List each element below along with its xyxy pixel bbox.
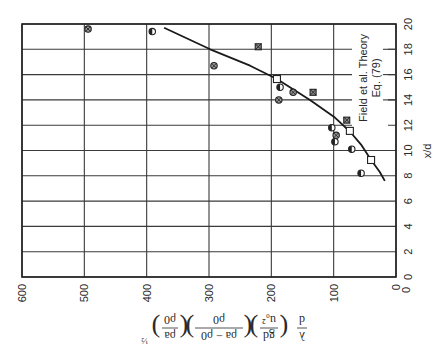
xd-tick-label: 8: [402, 173, 414, 179]
xd-tick-label: 2: [402, 249, 414, 255]
data-point: [368, 156, 375, 163]
data-point: [277, 84, 283, 90]
data-point: [85, 26, 91, 32]
data-point: [333, 132, 339, 138]
xd-tick-label: 0: [402, 274, 414, 280]
grid: [22, 24, 396, 277]
label-numerator: ρa: [164, 329, 176, 343]
label-denominator: ρ0: [164, 313, 176, 327]
label-denominator: ρ0: [213, 313, 225, 327]
xd-tick-label: 20: [402, 18, 414, 30]
xd-tick-label: 18: [402, 43, 414, 55]
value-tick-label: 500: [78, 284, 90, 302]
paren: (: [180, 314, 189, 343]
data-point: [290, 89, 296, 95]
xd-axis-label: x/d: [421, 144, 433, 159]
label-exponent: ½: [141, 336, 148, 346]
label-denominator: d: [299, 313, 305, 327]
data-point: [211, 63, 217, 69]
xd-tick-label: 10: [402, 144, 414, 156]
open-square-marker-icon: [346, 127, 353, 134]
xd-tick-label: 4: [402, 223, 414, 229]
data-point: [255, 44, 261, 50]
data-point: [349, 146, 355, 152]
data-point: [346, 127, 353, 134]
paren: (: [244, 314, 253, 343]
data-point: [149, 28, 155, 34]
data-markers: [85, 26, 375, 177]
value-tick-label: 200: [265, 284, 277, 302]
paren: (: [280, 314, 289, 343]
theory-equation-ref: Eq. (79): [370, 58, 382, 97]
value-tick-label: 600: [16, 284, 28, 302]
value-axis-label: λd(gdu₀²)(ρa − ρ0ρ0)(ρaρ0)½: [141, 313, 307, 346]
data-point: [310, 89, 316, 95]
open-square-marker-icon: [368, 156, 375, 163]
data-point: [344, 117, 350, 123]
label-numerator: λ: [299, 329, 305, 343]
data-point: [358, 170, 364, 176]
chart: 0246810121416182001002003004005006000x/d…: [0, 0, 441, 359]
label-denominator: u₀²: [262, 313, 276, 327]
corner-zero-label: 0: [400, 287, 412, 293]
data-point: [329, 125, 335, 131]
data-point: [273, 76, 280, 83]
data-point: [276, 97, 282, 103]
theory-curve: [164, 28, 385, 181]
label-numerator: ρa − ρ0: [201, 329, 237, 343]
xd-tick-label: 6: [402, 198, 414, 204]
xd-tick-label: 16: [402, 68, 414, 80]
xd-tick-label: 12: [402, 119, 414, 131]
xd-tick-label: 14: [402, 94, 414, 106]
data-point: [332, 138, 338, 144]
value-tick-label: 300: [203, 284, 215, 302]
value-tick-label: 400: [141, 284, 153, 302]
label-numerator: gd: [263, 329, 275, 343]
theory-annotation: Field et al. Theory: [357, 34, 369, 122]
value-tick-label: 100: [328, 284, 340, 302]
paren: ): [152, 314, 161, 343]
open-square-marker-icon: [273, 76, 280, 83]
